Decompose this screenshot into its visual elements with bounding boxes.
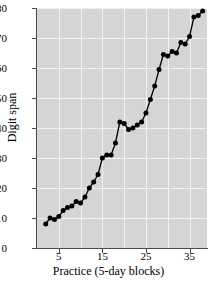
data-point [48, 216, 53, 221]
data-point [152, 84, 157, 89]
data-point [161, 52, 166, 57]
data-point [104, 153, 109, 158]
data-point [183, 42, 188, 47]
data-point [187, 34, 192, 39]
data-point [87, 186, 92, 191]
data-point [122, 121, 127, 126]
plot-area [37, 8, 207, 248]
data-point [91, 180, 96, 185]
data-point [56, 214, 61, 219]
x-tick-mark-5 [59, 249, 60, 253]
data-point [174, 51, 179, 56]
data-point [96, 172, 101, 177]
y-tick-mark-10 [32, 218, 36, 219]
data-point [157, 67, 162, 72]
data-point [139, 120, 144, 125]
data-point [200, 9, 205, 14]
data-point [52, 217, 57, 222]
data-point [100, 156, 105, 161]
data-point [65, 205, 70, 210]
data-point [178, 40, 183, 45]
y-tick-label-10: 10 [0, 213, 7, 224]
data-point [130, 126, 135, 131]
data-point [43, 222, 48, 227]
x-tick-mark-25 [146, 249, 147, 253]
data-point [74, 199, 79, 204]
data-point [82, 195, 87, 200]
y-tick-mark-80 [32, 8, 36, 9]
data-point [109, 153, 114, 158]
y-tick-label-70: 70 [0, 33, 7, 44]
data-point [69, 204, 74, 209]
x-tick-mark-35 [190, 249, 191, 253]
y-tick-mark-30 [32, 158, 36, 159]
y-tick-mark-40 [32, 128, 36, 129]
y-tick-label-20: 20 [0, 183, 7, 194]
x-tick-mark-15 [102, 249, 103, 253]
y-tick-mark-20 [32, 188, 36, 189]
data-point [117, 120, 122, 125]
y-tick-label-0: 0 [0, 243, 7, 254]
data-point [113, 141, 118, 146]
data-point [191, 15, 196, 20]
data-point [196, 13, 201, 18]
data-point [148, 97, 153, 102]
y-tick-mark-70 [32, 38, 36, 39]
data-point [126, 127, 131, 132]
data-series-digit-span [37, 8, 207, 248]
chart-figure: 01020304050607080 5152535 Digit span Pra… [0, 0, 217, 283]
data-point [78, 201, 83, 206]
data-point [165, 54, 170, 59]
x-axis-line [36, 248, 208, 249]
y-axis-line [36, 8, 37, 249]
y-tick-mark-0 [32, 248, 36, 249]
data-point [135, 123, 140, 128]
data-point [170, 49, 175, 54]
series-points [43, 9, 205, 227]
y-tick-label-80: 80 [0, 3, 7, 14]
y-tick-mark-60 [32, 68, 36, 69]
y-tick-mark-50 [32, 98, 36, 99]
x-axis-title: Practice (5-day blocks) [0, 264, 217, 279]
data-point [61, 208, 66, 213]
data-point [143, 111, 148, 116]
y-axis-title: Digit span [5, 68, 20, 168]
